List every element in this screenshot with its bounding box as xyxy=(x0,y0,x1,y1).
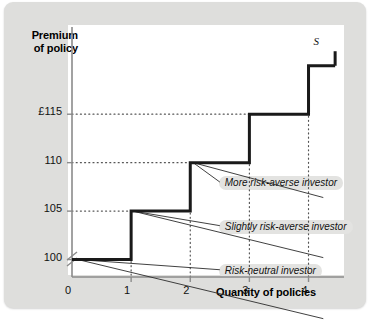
annotation-leader-lines xyxy=(78,163,220,270)
axes xyxy=(67,27,344,282)
demand-curve-line xyxy=(193,163,323,198)
demand-curves xyxy=(78,163,323,319)
figure-card: Premiumof policy Quantity of policies 10… xyxy=(4,2,366,308)
supply-step-path xyxy=(72,66,335,260)
annotation-leader-line xyxy=(133,211,220,226)
chart-canvas xyxy=(4,2,372,321)
curve-label-s: S xyxy=(313,35,319,47)
annotation-leader-line xyxy=(193,163,220,182)
demand-curve-line xyxy=(133,211,323,258)
